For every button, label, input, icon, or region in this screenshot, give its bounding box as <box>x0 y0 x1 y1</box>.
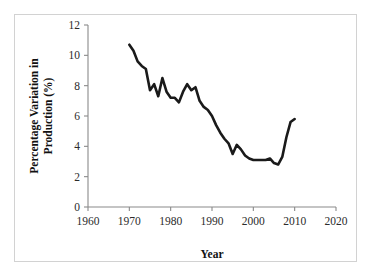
x-tick-label: 1990 <box>201 215 224 227</box>
y-tick-label: 10 <box>69 49 81 61</box>
x-tick-label: 2020 <box>325 215 348 227</box>
y-axis-title-line-2: Production (%) <box>42 77 55 154</box>
y-tick-label: 2 <box>74 171 80 183</box>
x-tick-label: 2000 <box>242 215 265 227</box>
x-tick-label: 1960 <box>77 215 100 227</box>
y-tick-label: 12 <box>69 19 81 31</box>
x-axis-title: Year <box>201 248 224 260</box>
y-tick-label: 6 <box>74 110 80 122</box>
y-tick-label: 4 <box>74 140 80 152</box>
x-tick-label: 1980 <box>159 215 182 227</box>
x-tick-label: 1970 <box>118 215 141 227</box>
series-line-production <box>129 45 294 165</box>
data-series-group <box>129 45 294 165</box>
x-tick-label: 2010 <box>283 215 306 227</box>
y-axis-title-line-1: Percentage Variation in <box>28 58 41 174</box>
x-axis-ticks: 1960197019801990200020102020 <box>77 207 348 227</box>
line-chart: 024681012 1960197019801990200020102020 Y… <box>0 0 372 274</box>
y-axis-ticks: 024681012 <box>69 19 89 213</box>
figure-root: 024681012 1960197019801990200020102020 Y… <box>0 0 372 274</box>
y-tick-label: 8 <box>74 80 80 92</box>
y-tick-label: 0 <box>74 201 80 213</box>
